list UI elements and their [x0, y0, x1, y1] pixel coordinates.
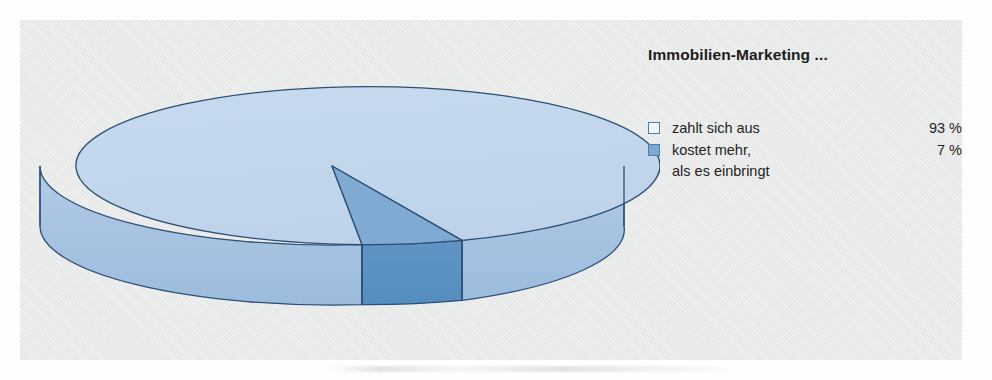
- legend-swatch-icon: [648, 144, 660, 156]
- pie-svg: [20, 20, 660, 360]
- legend-item[interactable]: zahlt sich aus 93 %: [648, 118, 962, 139]
- legend-item-value: 7 %: [914, 140, 962, 161]
- legend-item-label: zahlt sich aus: [672, 118, 914, 139]
- pie-side-wall-minor: [362, 240, 462, 304]
- legend-item-value: 93 %: [914, 118, 962, 139]
- legend-item-label: kostet mehr,: [672, 140, 914, 161]
- legend-rows: zahlt sich aus 93 % kostet mehr, 7 % als…: [648, 118, 962, 182]
- legend-swatch-icon: [648, 122, 660, 134]
- legend-item[interactable]: kostet mehr, 7 %: [648, 140, 962, 161]
- legend-block: Immobilien-Marketing ... zahlt sich aus …: [640, 46, 962, 182]
- chart-title: Immobilien-Marketing ...: [648, 46, 962, 64]
- legend-item-label-line2: als es einbringt: [672, 161, 962, 182]
- page-edge-smudge: [330, 366, 750, 372]
- pie-chart-graphic: [20, 20, 660, 360]
- figure-root: Immobilien-Marketing ... zahlt sich aus …: [0, 0, 992, 380]
